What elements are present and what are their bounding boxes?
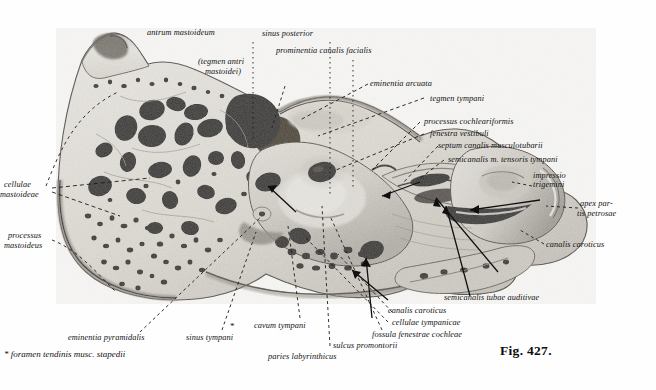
label-sulcus-promontorii: sulcus promontorii: [333, 341, 397, 351]
label-septum-canalis-musculotubarii: septum canalis musculotubarii: [438, 141, 543, 151]
label-prominentia-canalis-facialis: prominentia canalis facialis: [276, 46, 372, 56]
label-semicanalis-m-tensoris-tympani: semicanalis m. tensoris tympani: [448, 155, 558, 165]
label-eminentia-pyramidalis: eminentia pyramidalis: [68, 333, 145, 343]
label-tegmen-tympani: tegmen tympani: [430, 94, 484, 104]
label-cellulae-mastoideae-line2: mastoideae: [0, 190, 39, 200]
asterisk-marker: *: [230, 321, 235, 331]
label-tegmen-antri-mastoidei-line2: mastoidei): [205, 67, 241, 77]
label-processus-mastoideus-line2: mastoideus: [4, 241, 42, 251]
label-cellulae-mastoideae-line1: cellulae: [4, 180, 31, 190]
label-sinus-tympani: sinus tympani: [186, 333, 233, 343]
temporal-bone-illustration: [0, 0, 656, 390]
label-paries-labyrinthicus: paries labyrinthicus: [268, 352, 337, 362]
label-cellulae-tympanicae: cellulae tympanicae: [392, 318, 460, 328]
label-fenestra-vestibuli: fenestra vestibuli: [430, 129, 489, 139]
label-semicanalis-tubae-auditivae: semicanalis tubae auditivae: [444, 293, 539, 303]
label-sinus-posterior: sinus posterior: [262, 29, 313, 39]
label-antrum-mastoideum: antrum mastoideum: [147, 28, 215, 38]
label-processus-cochleariformis: processus cochleariformis: [424, 117, 514, 127]
label-apex-partis-petrosae-line1: apex par-: [580, 199, 613, 209]
figure-caption: Fig. 427.: [500, 343, 552, 359]
label-tegmen-antri-mastoidei-line1: (tegmen antri: [198, 57, 244, 67]
label-eminentia-arcuata: eminentia arcuata: [370, 79, 432, 89]
figure-page: antrum mastoideum (tegmen antri mastoide…: [0, 0, 656, 390]
leader-lines: [0, 0, 656, 390]
label-fossula-fenestrae-cochleae: fossula fenestrae cochleae: [372, 330, 462, 340]
figure-footnote: * foramen tendinis musc. stapedii: [4, 349, 125, 359]
label-canalis-caroticus-bottom: canalis caroticus: [388, 306, 446, 316]
label-cavum-tympani: cavum tympani: [254, 321, 306, 331]
label-apex-partis-petrosae-line2: tis petrosae: [577, 209, 616, 219]
label-impressio-trigemini-line2: trigemini: [533, 180, 564, 190]
label-processus-mastoideus-line1: processus: [8, 231, 41, 241]
label-canalis-caroticus-right: canalis caroticus: [546, 240, 604, 250]
